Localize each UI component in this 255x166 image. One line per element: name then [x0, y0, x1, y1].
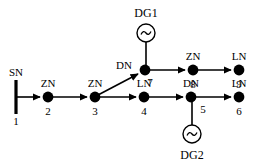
node-5-number-label: 5 [200, 103, 206, 115]
node-5[interactable] [186, 92, 197, 103]
node-7[interactable] [140, 65, 151, 76]
node-2[interactable] [43, 92, 54, 103]
node-3-type-label: ZN [88, 77, 103, 89]
node-8[interactable] [188, 65, 199, 76]
node-7-number-label: 7 [147, 76, 153, 88]
node-8-type-label: ZN [186, 50, 201, 62]
node-9[interactable] [234, 65, 245, 76]
node-8-number-label: 8 [190, 78, 196, 90]
dg2-label: DG2 [180, 148, 203, 162]
node-7-type-label: DN [116, 59, 132, 71]
node-6-number-label: 6 [236, 105, 242, 117]
source-number-label: 1 [13, 115, 19, 127]
dg1-label: DG1 [134, 6, 157, 20]
node-9-type-label: LN [232, 50, 247, 62]
node-2-number-label: 2 [45, 105, 51, 117]
node-6[interactable] [234, 92, 245, 103]
node-3-number-label: 3 [92, 105, 98, 117]
node-3[interactable] [90, 92, 101, 103]
one-line-diagram: SN 1 DG1 DG2 ZN 2 ZN 3 LN 4 DN 5 [0, 0, 255, 166]
node-4-number-label: 4 [141, 105, 147, 117]
source-type-label: SN [9, 66, 23, 78]
diagram-canvas: SN 1 DG1 DG2 ZN 2 ZN 3 LN 4 DN 5 [0, 0, 255, 166]
edge-n3-to-n7 [98, 74, 138, 95]
node-4[interactable] [139, 92, 150, 103]
node-2-type-label: ZN [41, 77, 56, 89]
node-9-number-label: 9 [236, 78, 242, 90]
